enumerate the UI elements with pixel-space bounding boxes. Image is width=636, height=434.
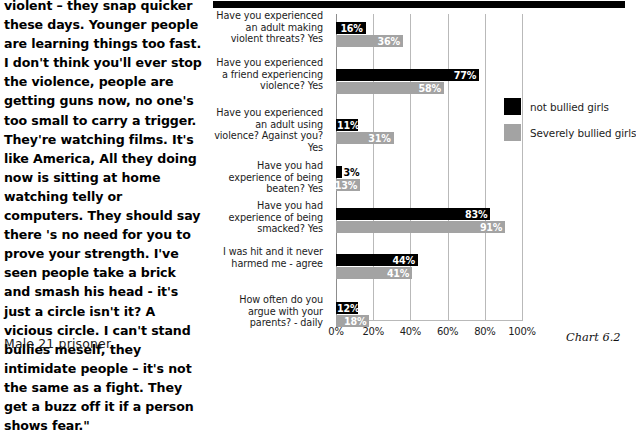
bar-1-not-bullied: 77% — [336, 69, 479, 81]
bar-5-not-bullied: 44% — [336, 254, 418, 266]
bar-3-severely-bullied: 13% — [336, 179, 360, 191]
bar-value-label: 11% — [337, 120, 362, 131]
bar-4-not-bullied: 83% — [336, 208, 490, 220]
legend-item-not-bullied: not bullied girls — [504, 98, 636, 115]
bar-value-label: 31% — [368, 133, 393, 144]
bar-value-label: 36% — [378, 36, 403, 47]
bar-value-label: 91% — [480, 222, 505, 233]
bar-value-label: 58% — [419, 83, 444, 94]
quote-body: violent – they snap quicker these days. … — [4, 0, 204, 434]
x-tick-label-60: 60% — [437, 326, 458, 337]
bar-6-not-bullied: 12% — [336, 302, 358, 314]
legend-item-severely-bullied: Severely bullied girls — [504, 124, 636, 141]
chart-caption: Chart 6.2 — [566, 330, 621, 344]
bar-value-label: 13% — [335, 180, 360, 191]
bar-value-label: 44% — [392, 255, 417, 266]
gridline-60 — [448, 14, 449, 321]
category-label-5: I was hit and it never harmed me - agree — [211, 246, 323, 269]
category-label-3: Have you had experience of being beaten?… — [211, 160, 323, 195]
bar-value-label: 77% — [454, 70, 479, 81]
bar-value-label: 83% — [465, 209, 490, 220]
gridline-80 — [485, 14, 486, 321]
chart-panel: Have you experienced an adult making vio… — [213, 0, 636, 369]
quote-column: violent – they snap quicker these days. … — [4, 0, 204, 434]
legend-label-not-bullied: not bullied girls — [530, 101, 609, 113]
quote-attribution: Male 21 prisoner — [4, 336, 111, 351]
x-tick-label-0: 0% — [328, 326, 343, 337]
plot-area: 16%36%77%58%11%31%3%13%83%91%44%41%12%18… — [336, 14, 522, 321]
category-label-6: How often do you argue with your parents… — [211, 294, 323, 329]
bar-0-not-bullied: 16% — [336, 22, 366, 34]
legend-swatch-icon-severely-bullied — [504, 124, 521, 141]
x-tick-label-40: 40% — [400, 326, 421, 337]
bar-2-severely-bullied: 31% — [336, 132, 394, 144]
bar-0-severely-bullied: 36% — [336, 35, 403, 47]
category-label-1: Have you experienced a friend experienci… — [211, 57, 323, 92]
bar-value-label: 18% — [344, 316, 369, 327]
bar-3-not-bullied: 3% — [336, 166, 342, 178]
legend-label-severely-bullied: Severely bullied girls — [530, 127, 636, 139]
chart-top-rule — [213, 1, 625, 8]
bar-2-not-bullied: 11% — [336, 119, 358, 131]
category-label-0: Have you experienced an adult making vio… — [211, 10, 323, 45]
bar-value-label: 3% — [344, 167, 363, 178]
bar-value-label: 41% — [387, 268, 412, 279]
bar-value-label: 16% — [340, 23, 365, 34]
category-label-4: Have you had experience of being smacked… — [211, 200, 323, 235]
legend-swatch-icon-not-bullied — [504, 98, 521, 115]
bar-5-severely-bullied: 41% — [336, 267, 412, 279]
x-tick-label-20: 20% — [363, 326, 384, 337]
x-tick-label-80: 80% — [474, 326, 495, 337]
x-axis-ticks: 0%20%40%60%80%100% — [336, 326, 522, 340]
category-label-2: Have you experienced an adult using viol… — [211, 107, 323, 153]
gridline-100 — [522, 14, 523, 321]
bar-value-label: 12% — [337, 303, 362, 314]
chart-legend: not bullied girls Severely bullied girls — [504, 98, 636, 150]
bar-1-severely-bullied: 58% — [336, 82, 444, 94]
bar-4-severely-bullied: 91% — [336, 221, 505, 233]
x-tick-label-100: 100% — [508, 326, 535, 337]
